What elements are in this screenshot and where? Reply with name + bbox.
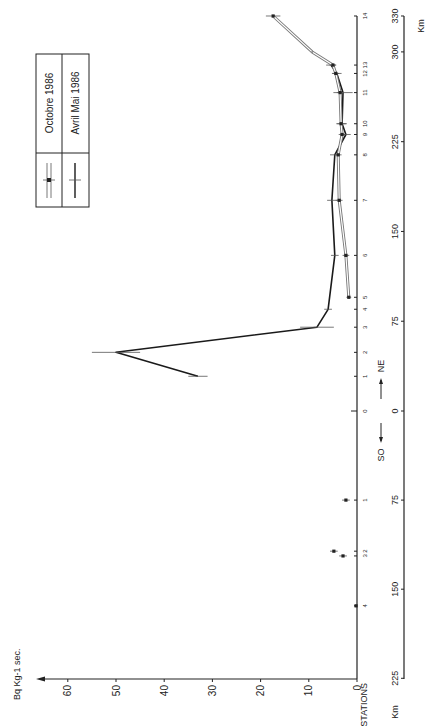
station-label: 4	[362, 307, 368, 311]
station-label: 9	[362, 132, 368, 136]
km-tick-label: 330	[390, 8, 400, 23]
km-tick-label: 75	[390, 495, 400, 505]
station-label: 10	[362, 120, 368, 127]
station-label: 5	[362, 295, 368, 299]
data-point	[340, 133, 343, 136]
km-tick-label: 225	[390, 671, 400, 686]
station-label: 14	[362, 12, 368, 19]
station-label: 2	[362, 350, 368, 354]
data-point	[272, 14, 275, 17]
series-octobre-1986-ne	[266, 14, 351, 298]
arrow-up-icon	[379, 378, 383, 384]
legend-label-avril: Avril Mai 1986	[70, 71, 81, 135]
station-label: 2	[362, 549, 368, 553]
direction-label-ne: NE	[376, 360, 386, 373]
stations-axis-title: STATIONS	[359, 683, 369, 726]
station-label: 6	[362, 253, 368, 257]
data-point	[332, 550, 335, 553]
station-label: 1	[362, 374, 368, 378]
value-tick-label: 60	[62, 685, 73, 697]
data-point	[339, 122, 342, 125]
km-tick-label: 0	[390, 408, 400, 413]
value-tick-label: 40	[159, 685, 170, 697]
data-point	[337, 153, 340, 156]
chart: 0102030405060Bq Kg-1 sec.012345678910111…	[0, 0, 433, 726]
station-label: 3	[362, 325, 368, 329]
km-tick-label: 225	[390, 134, 400, 149]
series-avril-mai-1986-ne	[92, 65, 353, 376]
data-point	[347, 296, 350, 299]
series-line	[116, 65, 346, 376]
station-label: 7	[362, 198, 368, 202]
data-point	[311, 51, 313, 53]
station-label: 4	[362, 604, 368, 608]
km-tick-label: 300	[390, 44, 400, 59]
data-point	[344, 254, 347, 257]
arrow-left-icon	[36, 677, 45, 682]
legend: Octobre 1986 Avril Mai 1986	[36, 54, 89, 207]
legend-label-octobre: Octobre 1986	[44, 72, 55, 133]
data-point	[341, 554, 344, 557]
station-label: 11	[362, 89, 368, 96]
data-point	[331, 63, 334, 66]
series-octobre-1986-so	[330, 499, 358, 608]
value-tick-label: 50	[111, 685, 122, 697]
station-label: 1	[362, 498, 368, 502]
value-tick-label: 30	[207, 685, 218, 697]
data-point	[354, 604, 357, 607]
km-tick-label: 150	[390, 224, 400, 239]
value-tick-label: 20	[255, 685, 266, 697]
data-point	[338, 199, 341, 202]
value-tick-label: 10	[303, 685, 314, 697]
value-axis-title: Bq Kg-1 sec.	[12, 648, 22, 700]
data-point	[334, 72, 337, 75]
station-label: 0	[362, 409, 368, 413]
data-point	[339, 91, 342, 94]
km-tick-label: 75	[390, 316, 400, 326]
arrow-down-icon	[379, 437, 383, 443]
station-label: 8	[362, 153, 368, 157]
station-label: 13	[362, 61, 368, 68]
data-series	[92, 14, 358, 607]
km-tick-label: 150	[390, 582, 400, 597]
station-label: 3	[362, 554, 368, 558]
station-label: 12	[362, 69, 368, 76]
km-axis-title-top: Km	[416, 19, 426, 33]
direction-label-so: SO	[376, 448, 386, 461]
km-axis-title-bottom: Km	[390, 705, 400, 719]
data-point	[344, 499, 347, 502]
